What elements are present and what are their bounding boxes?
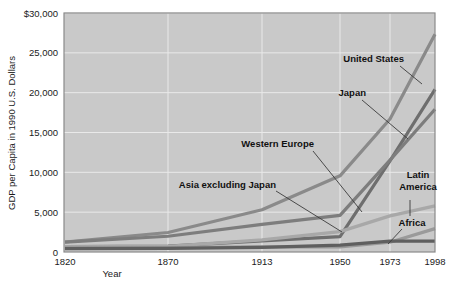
x-tick-label: 1913	[251, 256, 272, 267]
series-annotation-label: America	[399, 181, 437, 192]
x-tick-label: 1973	[379, 256, 400, 267]
series-annotation-label: Africa	[399, 217, 427, 228]
y-tick-label: 25,000	[29, 47, 58, 58]
y-axis-title: GDP per Capita in 1990 U.S. Dollars	[6, 56, 17, 210]
y-tick-label: 10,000	[29, 167, 58, 178]
x-tick-label: 1870	[157, 256, 178, 267]
chart-figure: 05,00010,00015,00020,00025,000$30,000 18…	[0, 0, 450, 292]
series-annotation-label: Asia excluding Japan	[179, 179, 276, 190]
y-tick-label: 20,000	[29, 87, 58, 98]
series-annotation-label: United States	[343, 53, 404, 64]
x-tick-label: 1820	[54, 256, 75, 267]
x-tick-label: 1950	[329, 256, 350, 267]
y-tick-label: 15,000	[29, 127, 58, 138]
y-tick-label: $30,000	[24, 8, 58, 19]
series-annotation-label: Japan	[339, 87, 367, 98]
x-axis-title: Year	[102, 268, 121, 279]
y-tick-label: 5,000	[34, 207, 58, 218]
series-annotation-label: Latin	[407, 169, 430, 180]
x-tick-label: 1998	[424, 256, 445, 267]
gdp-per-capita-line-chart: 05,00010,00015,00020,00025,000$30,000 18…	[0, 0, 450, 292]
series-annotation-label: Western Europe	[241, 138, 314, 149]
